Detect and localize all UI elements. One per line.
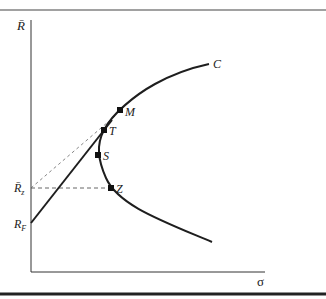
point-m-label: M — [124, 105, 136, 119]
curve-c-label: C — [213, 57, 222, 71]
rf-tangent-line — [31, 120, 112, 223]
diagram-canvas: R̄ σ M T S Z C R̄z RF — [0, 0, 326, 299]
point-z-marker — [108, 185, 114, 191]
point-m-marker — [117, 107, 123, 113]
point-s-marker — [95, 152, 101, 158]
point-t-label: T — [109, 124, 117, 138]
point-t-marker — [101, 127, 107, 133]
rf-label: RF — [13, 217, 26, 233]
y-axis-label: R̄ — [16, 18, 25, 33]
frontier-curve-c — [99, 64, 212, 242]
rz-label: R̄z — [13, 181, 25, 197]
x-axis-label: σ — [257, 274, 264, 289]
point-s-label: S — [103, 149, 109, 163]
point-z-label: Z — [116, 182, 123, 196]
